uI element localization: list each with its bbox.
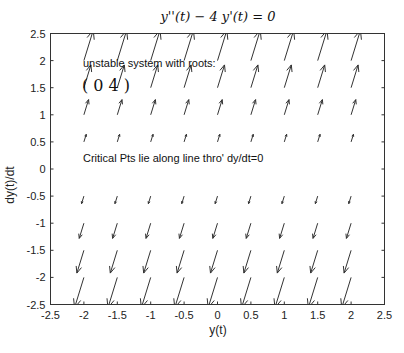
annotation-critical: Critical Pts lie along line thro' dy/dt=…: [83, 152, 263, 164]
y-tick-label: -2.5: [27, 299, 46, 311]
x-tick-label: 0.5: [243, 309, 258, 321]
y-axis-label: dy(t)/dt: [3, 166, 17, 204]
x-tick-label: -1.5: [108, 309, 127, 321]
x-tick-label: -2: [79, 309, 89, 321]
x-tick-label: 0: [214, 309, 220, 321]
x-axis-label: y(t): [209, 323, 226, 337]
y-tick-label: 0: [39, 163, 45, 175]
annotation-unstable: unstable system with roots:: [83, 57, 216, 69]
y-tick-label: -1: [36, 217, 46, 229]
x-tick-label: 1: [281, 309, 287, 321]
x-tick-label: 2: [348, 309, 354, 321]
x-tick-label: -1: [146, 309, 156, 321]
chart-title: y''(t) − 4 y'(t) = 0: [159, 9, 275, 24]
y-tick-label: 2.5: [30, 28, 45, 40]
y-axis-ticks: 2.521.510.50-0.5-1-1.5-2-2.5: [27, 28, 385, 311]
quiver-chart: y''(t) − 4 y'(t) = 0 -2.5-2-1.5-1-0.500.…: [0, 0, 404, 353]
annotation-roots: ( 0 4 ): [82, 76, 130, 95]
x-tick-label: 2.5: [377, 309, 392, 321]
y-tick-label: -1.5: [27, 244, 46, 256]
y-tick-label: 2: [39, 55, 45, 67]
x-tick-label: 1.5: [310, 309, 325, 321]
y-tick-label: 1: [39, 109, 45, 121]
y-tick-label: -0.5: [27, 190, 46, 202]
y-tick-label: 0.5: [30, 136, 45, 148]
plot-frame: [51, 34, 385, 305]
x-tick-label: -0.5: [175, 309, 194, 321]
y-tick-label: -2: [36, 271, 46, 283]
y-tick-label: 1.5: [30, 82, 45, 94]
vector-field: [71, 0, 364, 342]
